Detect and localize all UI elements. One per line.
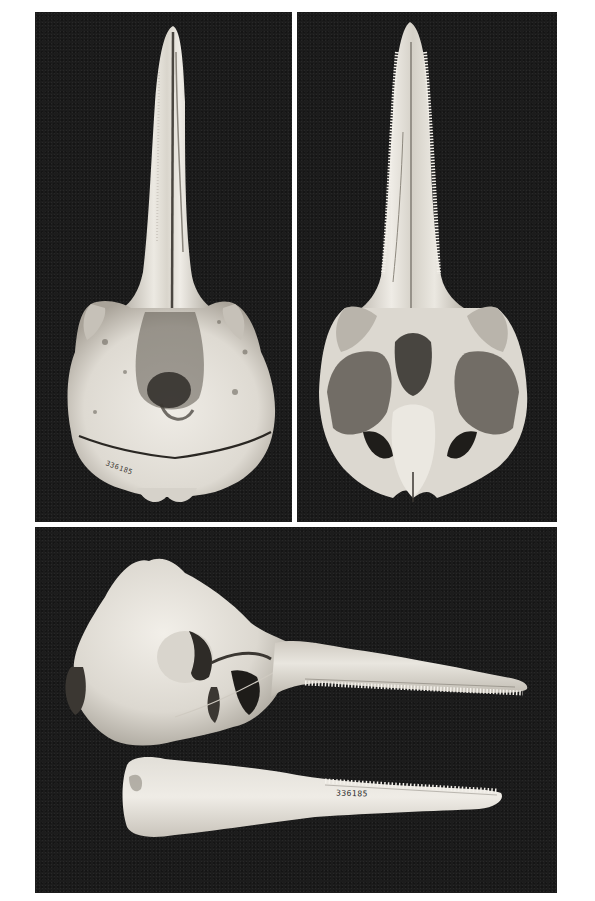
dorsal-view-panel: 336185 [35, 12, 292, 522]
dorsal-skull-image [35, 12, 292, 522]
ventral-skull-image [297, 12, 557, 522]
ventral-view-panel [297, 12, 557, 522]
lateral-skull-image [35, 527, 557, 893]
lateral-view-panel: 336185 [35, 527, 557, 893]
specimen-number-mandible: 336185 [336, 788, 368, 798]
